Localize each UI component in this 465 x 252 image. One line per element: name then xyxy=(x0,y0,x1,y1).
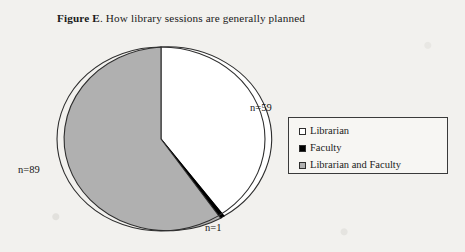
legend-swatch-librarian-and-faculty xyxy=(299,162,306,169)
chart-legend: Librarian Faculty Librarian and Faculty xyxy=(288,117,448,174)
data-label-librarian: n=59 xyxy=(250,102,272,114)
legend-swatch-faculty xyxy=(299,145,306,152)
legend-swatch-librarian xyxy=(299,128,306,135)
data-label-faculty: n=1 xyxy=(205,222,221,234)
legend-item-faculty[interactable]: Faculty xyxy=(299,140,447,156)
legend-label-librarian: Librarian xyxy=(310,125,349,137)
legend-label-librarian-and-faculty: Librarian and Faculty xyxy=(310,159,401,171)
data-label-librarian-and-faculty: n=89 xyxy=(18,164,40,176)
legend-label-faculty: Faculty xyxy=(310,142,342,154)
legend-item-librarian[interactable]: Librarian xyxy=(299,123,447,139)
legend-item-librarian-and-faculty[interactable]: Librarian and Faculty xyxy=(299,157,447,173)
figure-root: Figure E. How library sessions are gener… xyxy=(0,0,465,252)
